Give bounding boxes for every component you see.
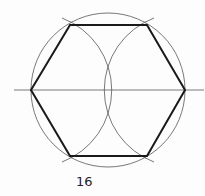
hexagon: [31, 25, 185, 156]
figure-label: 16: [76, 174, 93, 189]
hexagon-construction-diagram: 16: [0, 0, 205, 196]
diagram-svg: [0, 0, 205, 196]
